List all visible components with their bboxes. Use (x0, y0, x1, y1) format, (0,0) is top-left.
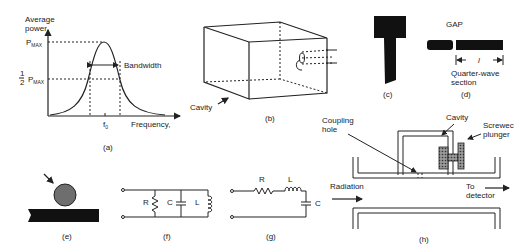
bandwidth-label: Bandwidth (124, 61, 161, 70)
f-l-label: L (195, 198, 200, 207)
resonance-curve (50, 42, 165, 115)
caption-e: (e) (62, 232, 72, 241)
panel-a-resonance-curve: Average power PMAX 1 2 PMAX Bandwidth f0… (19, 15, 180, 152)
waveguide-top-outer (353, 157, 500, 178)
section-label-1: Quarter-wave (451, 69, 500, 78)
panel-h-waveguide-cavity: Coupling hole Cavity Screwec plunger Rad… (322, 113, 514, 244)
half-den: 2 (20, 78, 25, 87)
terminal-bottom (231, 216, 234, 219)
plunger-screw (458, 143, 464, 169)
gap-label: GAP (446, 20, 463, 29)
terminal-bottom (122, 216, 125, 219)
panel-e-dielectric-sphere: (e) (28, 174, 99, 241)
h-cavity-label: Cavity (446, 113, 468, 122)
cavity-arrow (218, 98, 228, 104)
f0-label: f0 (103, 120, 108, 130)
coupling-label-1: Coupling (322, 116, 354, 125)
t-stem (384, 38, 396, 84)
length-label: l (478, 56, 480, 65)
resistor-r (152, 190, 158, 217)
g-r-label: R (259, 175, 265, 184)
caption-b: (b) (265, 114, 275, 123)
pmax-label: PMAX (26, 38, 43, 48)
coupling-label-2: hole (322, 125, 338, 134)
half-num: 1 (20, 69, 25, 78)
caption-a: (a) (103, 143, 113, 152)
waveguide-bottom-outer (353, 208, 500, 229)
f-c-label: C (167, 198, 173, 207)
section-label-2: section (451, 78, 476, 87)
plunger-label-1: Screwec (483, 121, 514, 130)
half-pmax-label: PMAX (28, 75, 45, 85)
detector-label-1: To (466, 182, 475, 191)
terminal-top (122, 189, 125, 192)
panel-f-parallel-rlc: R C L (f) (122, 189, 212, 242)
plunger-head (439, 147, 448, 169)
t-head (374, 16, 406, 38)
incident-arrow (44, 174, 53, 183)
terminal-top (231, 190, 234, 193)
caption-g: (g) (266, 232, 276, 241)
caption-c: (c) (383, 90, 393, 99)
y-axis-label-2: power (25, 24, 47, 33)
g-l-label: L (288, 175, 293, 184)
caption-d: (d) (461, 90, 471, 99)
caption-h: (h) (419, 235, 429, 244)
substrate (28, 209, 99, 222)
panel-g-series-rlc: R L C (g) (231, 175, 322, 241)
detector-label-2: detector (466, 191, 495, 200)
caption-f: (f) (163, 232, 171, 241)
g-c-label: C (315, 199, 321, 208)
panel-b-cavity-box: Cavity (b) (190, 22, 337, 123)
panel-c-t-antenna: (c) (374, 16, 406, 99)
left-conductor (427, 40, 453, 50)
x-axis-label: Frequency, (131, 120, 170, 129)
quarter-wave-conductor (456, 40, 503, 50)
resistor-r (254, 188, 285, 194)
inductor-l (208, 196, 212, 212)
panel-d-quarter-wave: GAP l Quarter-wave section (d) (427, 20, 503, 99)
sphere (54, 184, 76, 206)
y-axis-label-1: Average (25, 15, 55, 24)
f-r-label: R (143, 198, 149, 207)
radiation-label: Radiation (330, 182, 364, 191)
cavity-label: Cavity (190, 103, 212, 112)
inductor-l (285, 187, 301, 191)
plunger-label-2: plunger (483, 130, 510, 139)
box-top (204, 22, 327, 42)
resonator-figure: Average power PMAX 1 2 PMAX Bandwidth f0… (0, 0, 527, 252)
